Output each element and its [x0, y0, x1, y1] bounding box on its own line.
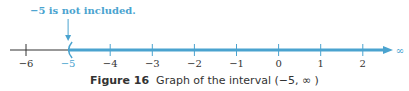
tick-label: −4 — [103, 58, 118, 69]
arrow-head-icon — [383, 46, 393, 54]
number-line-diagram: −6−5−4−3−2−1012∞ −5 is not included. — [0, 0, 409, 74]
infinity-label: ∞ — [396, 45, 404, 56]
tick-label: −2 — [187, 58, 202, 69]
tick-label: −1 — [229, 58, 244, 69]
tick-label: −5 — [61, 58, 76, 69]
figure-number: Figure 16 — [90, 74, 149, 87]
tick-label: −6 — [19, 58, 34, 69]
pointer-arrow-head-icon — [65, 35, 71, 41]
tick-label: 2 — [360, 58, 366, 69]
tick-label: 0 — [275, 58, 281, 69]
caption-text: Graph of the interval (−5, ∞ ) — [156, 74, 319, 87]
tick-label: −3 — [145, 58, 160, 69]
tick-label: 1 — [318, 58, 324, 69]
figure-caption: Figure 16 Graph of the interval (−5, ∞ ) — [0, 74, 409, 87]
annotation-text: −5 is not included. — [30, 5, 136, 16]
